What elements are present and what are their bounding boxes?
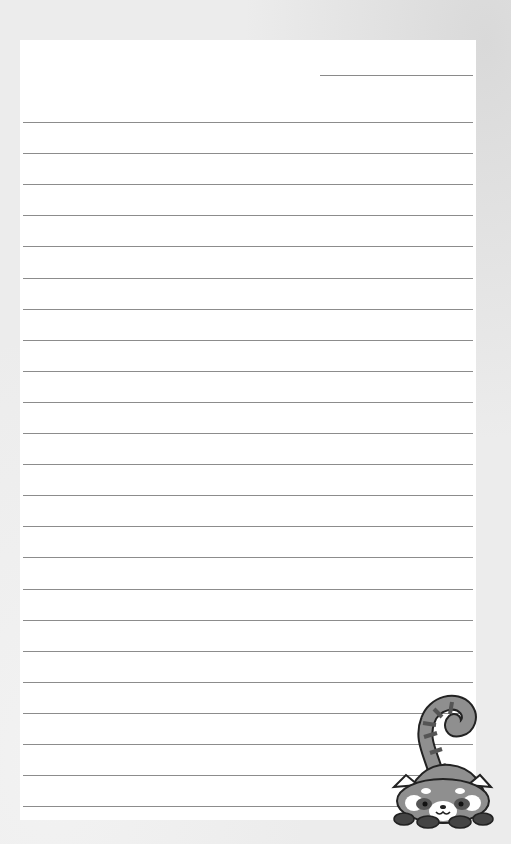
writing-line [23, 557, 473, 558]
date-line[interactable] [320, 75, 473, 76]
writing-line [23, 402, 473, 403]
writing-line [23, 433, 473, 434]
writing-line [23, 184, 473, 185]
writing-line [23, 215, 473, 216]
writing-line [23, 246, 473, 247]
writing-line [23, 309, 473, 310]
writing-line [23, 526, 473, 527]
writing-line [23, 153, 473, 154]
writing-line [23, 495, 473, 496]
writing-line [23, 340, 473, 341]
writing-line [23, 682, 473, 683]
writing-line [23, 371, 473, 372]
writing-line [23, 651, 473, 652]
writing-line [23, 589, 473, 590]
writing-line [23, 464, 473, 465]
writing-line [23, 620, 473, 621]
red-panda-icon [390, 685, 495, 830]
writing-line [23, 278, 473, 279]
writing-line [23, 122, 473, 123]
